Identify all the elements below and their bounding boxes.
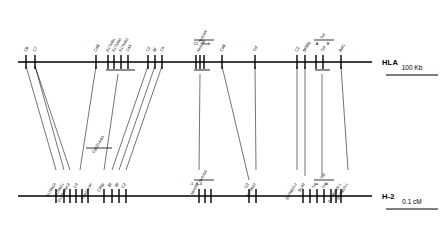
homology-line [35, 66, 70, 170]
homology-line [341, 66, 348, 170]
hla-locus-label: Bat1 [338, 42, 347, 52]
homology-line [26, 66, 56, 170]
scalebar-label-kb: 100 Kb [402, 64, 423, 71]
hla-locus-label: C6 [23, 45, 30, 53]
homology-line [126, 66, 162, 170]
h2-locus-label: Bf [107, 181, 114, 188]
hla-locus-label: Tnf [252, 44, 260, 52]
hla-bracket-sublabel: Rxrb [202, 41, 210, 46]
hla-locus-label: C4B [219, 43, 227, 53]
hla-locus-label: C2 [145, 45, 152, 53]
homology-line [35, 66, 64, 170]
h2-locus-label: C2 [120, 181, 127, 189]
h2-locus-label: B144 [297, 181, 306, 192]
hla-locus-label: C4B [93, 43, 101, 53]
homology-line [222, 66, 249, 180]
scalebar-label-cm: 0.1 cM [402, 198, 422, 205]
h2-bracket-sublabel: a [316, 181, 319, 186]
hla-bracket-sublabel: A [316, 41, 319, 46]
homology-line [199, 74, 200, 170]
homology-line [112, 66, 148, 170]
h2-bracket-label: Tnf [319, 172, 327, 180]
h2-bracket-sublabel: b [326, 181, 328, 186]
homology-line [119, 66, 155, 170]
homology-line [104, 74, 118, 170]
hla-locus-label: C7 [32, 45, 39, 53]
axis-label-h2: H-2 [382, 192, 395, 201]
figure-canvas: HLAH-2C6C7C4BD17S451D17S450D17S452C4AC2B… [0, 0, 448, 225]
h2-locus-label: C4 [72, 181, 79, 189]
hla-locus-label: Bf [152, 46, 159, 53]
h2-locus-label: D17Mit23-2 [285, 183, 298, 201]
hla-locus-label: C2 [294, 45, 301, 53]
hla-locus-label: Bf/Bfg [302, 40, 312, 53]
hla-bracket-sublabel: 21 [194, 41, 198, 46]
hla-locus-label: C4 [159, 45, 166, 53]
axis-label-hla: HLA [382, 58, 398, 67]
h2-bracket-label: Cyp21a-ps [91, 134, 105, 154]
hla-bracket-label: Tnf [319, 32, 327, 40]
h2-locus-label: C2 [243, 181, 250, 189]
homology-line [255, 66, 256, 170]
hla-bracket-sublabel: B [327, 41, 330, 46]
h2-bracket-sublabel: -1 -3 -4 [190, 181, 203, 186]
map-diagram: HLAH-2C6C7C4BD17S451D17S450D17S452C4AC2B… [0, 0, 448, 225]
